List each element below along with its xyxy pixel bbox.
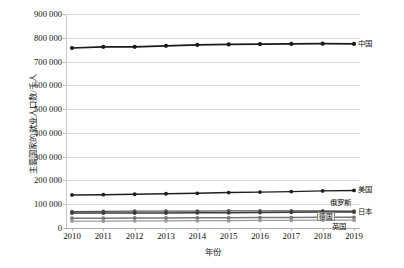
data-point-marker xyxy=(321,189,325,193)
x-axis-title: 年份 xyxy=(66,245,360,257)
data-point-marker xyxy=(227,211,231,215)
series-label-4: 德国 xyxy=(317,212,335,221)
data-point-marker xyxy=(258,211,262,215)
data-point-marker xyxy=(164,44,168,48)
data-point-marker xyxy=(70,193,74,197)
y-tick-label: 800 000 xyxy=(8,33,62,42)
data-point-marker xyxy=(227,42,231,46)
data-point-marker xyxy=(133,219,137,223)
data-point-marker xyxy=(133,192,137,196)
data-point-marker xyxy=(227,191,231,195)
y-axis-tick-labels: 0100 000200 000300 000400 000500 000600 … xyxy=(8,14,62,228)
data-point-marker xyxy=(227,219,231,223)
data-point-marker xyxy=(289,210,293,214)
data-point-marker xyxy=(101,219,105,223)
data-point-marker xyxy=(195,191,199,195)
series-line xyxy=(72,212,354,213)
series-label-2: 俄罗斯 xyxy=(330,199,351,207)
y-tick-label: 200 000 xyxy=(8,176,62,185)
series-lines xyxy=(66,14,360,228)
data-point-marker xyxy=(101,45,105,49)
data-point-marker xyxy=(164,192,168,196)
data-point-marker xyxy=(352,42,356,46)
data-point-marker xyxy=(195,219,199,223)
data-point-marker xyxy=(289,190,293,194)
plot-area xyxy=(66,14,360,228)
series-label-0: 中国 xyxy=(358,40,372,48)
data-point-marker xyxy=(321,42,325,46)
data-point-marker xyxy=(352,218,356,222)
series-line xyxy=(72,190,354,195)
data-point-marker xyxy=(289,42,293,46)
series-line xyxy=(72,217,354,218)
series-line xyxy=(72,220,354,221)
data-point-marker xyxy=(258,218,262,222)
series-label-5: 英国 xyxy=(332,223,346,231)
data-point-marker xyxy=(195,43,199,47)
y-tick-label: 600 000 xyxy=(8,81,62,90)
data-point-marker xyxy=(70,219,74,223)
y-tick-label: 300 000 xyxy=(8,152,62,161)
series-label-1: 美国 xyxy=(358,186,372,194)
data-point-marker xyxy=(258,190,262,194)
y-tick-label: 700 000 xyxy=(8,57,62,66)
data-point-marker xyxy=(164,219,168,223)
data-point-marker xyxy=(352,210,356,214)
data-point-marker xyxy=(101,193,105,197)
y-tick-label: 500 000 xyxy=(8,105,62,114)
data-point-marker xyxy=(195,211,199,215)
data-point-marker xyxy=(352,189,356,193)
y-tick-label: 100 000 xyxy=(8,200,62,209)
gridline xyxy=(66,228,360,229)
y-tick-mark xyxy=(63,228,66,229)
data-point-marker xyxy=(258,42,262,46)
employment-line-chart: 主要国家的就业人口数/千人 0100 000200 000300 000400 … xyxy=(0,0,404,268)
series-label-3: 日本 xyxy=(358,208,372,216)
data-point-marker xyxy=(70,46,74,50)
series-line xyxy=(72,44,354,48)
data-point-marker xyxy=(164,211,168,215)
data-point-marker xyxy=(133,45,137,49)
data-point-marker xyxy=(101,211,105,215)
data-point-marker xyxy=(133,211,137,215)
data-point-marker xyxy=(70,211,74,215)
x-tick-label: 2019 xyxy=(332,231,376,242)
y-tick-label: 400 000 xyxy=(8,128,62,137)
y-tick-label: 900 000 xyxy=(8,10,62,19)
x-axis-tick-labels: 2010201120122013201420152016201720182019 xyxy=(66,231,360,245)
data-point-marker xyxy=(289,218,293,222)
